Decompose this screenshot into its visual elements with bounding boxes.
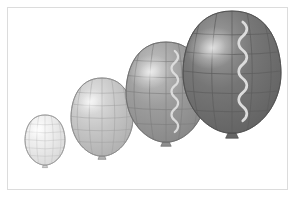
- balloon-2-knot: [98, 156, 106, 159]
- balloon-group: [23, 8, 286, 168]
- balloons-illustration: [0, 0, 297, 199]
- balloon-1-pattern: [23, 114, 67, 167]
- balloon-3-knot: [161, 142, 171, 146]
- balloon-1: [23, 114, 67, 168]
- balloon-4-knot: [226, 133, 239, 138]
- image-canvas: Four balloons in graduated sizes and sha…: [0, 0, 297, 199]
